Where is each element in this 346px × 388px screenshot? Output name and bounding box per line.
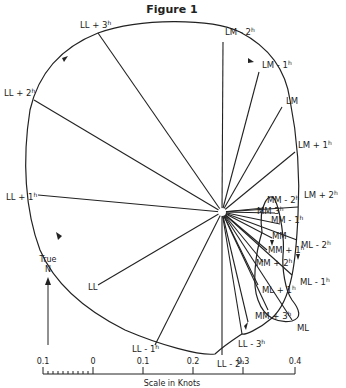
label-ll3m: LL - 3h bbox=[238, 338, 265, 349]
north-label-line2: N bbox=[45, 265, 51, 274]
scale-tick-label: 0.1 bbox=[137, 357, 150, 366]
label-lm1p: LM + 1h bbox=[298, 139, 332, 150]
figure-title: Figure 1 bbox=[146, 3, 197, 16]
label-ll1m: LL - 1h bbox=[132, 343, 159, 354]
center-point bbox=[218, 208, 226, 216]
label-lm2p: LM + 2h bbox=[304, 189, 338, 200]
label-mm2p: MM + 2h bbox=[256, 257, 293, 268]
arrow-icon bbox=[244, 322, 248, 330]
current-vectors bbox=[34, 33, 298, 355]
north-label-line1: True bbox=[39, 255, 57, 264]
tidal-current-diagram: Figure 1 bbox=[0, 0, 346, 388]
label-ml1p: ML + 1h bbox=[262, 284, 296, 295]
scale-tick-label: 0.1 bbox=[37, 357, 50, 366]
label-mm2m: MM - 2h bbox=[267, 194, 300, 205]
arrow-icon bbox=[248, 58, 254, 63]
label-mm1m: MM - 1h bbox=[271, 214, 304, 225]
scale-title: Scale in Knots bbox=[144, 379, 200, 388]
label-ll1p: LL + 1h bbox=[6, 191, 37, 202]
north-arrow-icon bbox=[45, 277, 51, 285]
arrow-icon bbox=[62, 56, 68, 62]
label-lm1m: LM - 1h bbox=[262, 59, 292, 70]
label-ll3p: LL + 3h bbox=[80, 19, 111, 30]
scale-tick-label: 0 bbox=[90, 357, 95, 366]
scale-tick-label: 0.2 bbox=[187, 357, 200, 366]
label-ll: LL bbox=[88, 282, 98, 292]
scale-tick-label: 0.4 bbox=[289, 357, 302, 366]
label-lm2m: LM - 2h bbox=[225, 26, 255, 37]
label-mm3p: MM + 3h bbox=[255, 310, 292, 321]
outer-current-curve bbox=[26, 22, 299, 355]
scale-bar: 0.100.10.20.30.4 bbox=[37, 357, 302, 374]
label-mm1p: MM + 1h bbox=[268, 244, 305, 255]
label-ll2p: LL + 2h bbox=[4, 87, 35, 98]
label-lm: LM bbox=[286, 96, 298, 106]
scale-tick-label: 0.3 bbox=[237, 357, 250, 366]
label-ml: ML bbox=[297, 323, 309, 333]
label-mm: MM bbox=[272, 231, 287, 241]
label-ml2m: ML - 2h bbox=[301, 239, 331, 250]
label-ml1m: ML - 1h bbox=[300, 276, 330, 287]
arrow-icon bbox=[56, 232, 62, 240]
